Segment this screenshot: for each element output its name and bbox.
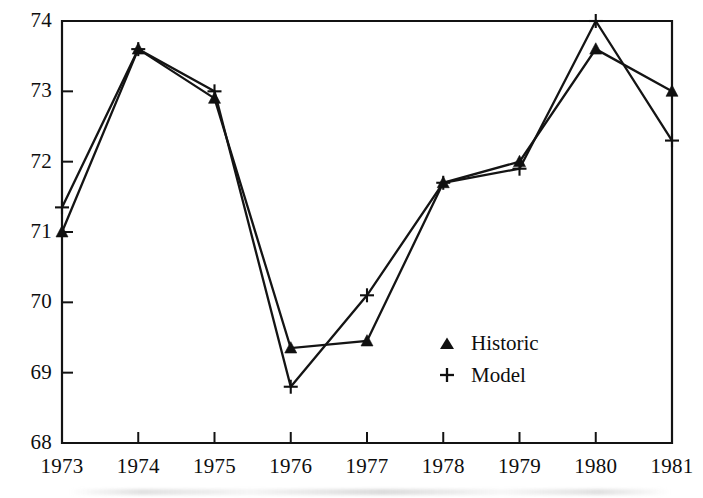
triangle-marker-icon: [437, 335, 471, 351]
x-tick-label: 1977: [331, 456, 403, 477]
legend-item-historic: Historic: [437, 327, 627, 359]
y-tick-label: 74: [6, 10, 52, 31]
legend-label-model: Model: [471, 365, 526, 386]
legend-label-historic: Historic: [471, 333, 539, 354]
y-tick-label: 68: [6, 432, 52, 453]
x-tick-label: 1974: [102, 456, 174, 477]
x-tick-label: 1979: [484, 456, 556, 477]
y-tick-label: 69: [6, 362, 52, 383]
x-tick-label: 1976: [255, 456, 327, 477]
x-tick-label: 1981: [636, 456, 703, 477]
x-tick-label: 1973: [26, 456, 98, 477]
y-tick-label: 70: [6, 291, 52, 312]
chart-legend: Historic Model: [437, 327, 627, 391]
line-chart: 68697071727374 1973197419751976197719781…: [0, 0, 703, 498]
legend-item-model: Model: [437, 359, 627, 391]
x-tick-label: 1975: [179, 456, 251, 477]
y-tick-label: 71: [6, 221, 52, 242]
chart-canvas: [0, 0, 703, 498]
y-tick-label: 72: [6, 151, 52, 172]
x-tick-label: 1978: [407, 456, 479, 477]
x-tick-label: 1980: [560, 456, 632, 477]
plus-marker-icon: [437, 366, 471, 384]
y-tick-label: 73: [6, 80, 52, 101]
